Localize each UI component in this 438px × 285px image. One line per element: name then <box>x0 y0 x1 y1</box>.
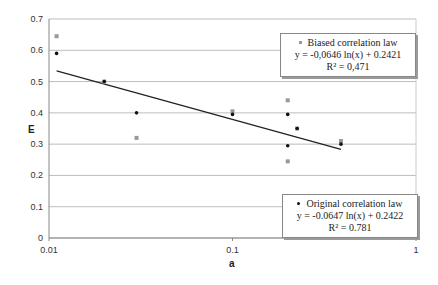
dot-marker <box>102 80 106 84</box>
y-axis-label: E <box>28 124 35 135</box>
trendline-path <box>57 71 341 150</box>
dot-marker <box>339 142 343 146</box>
legend-biased-title: Biased correlation law <box>308 37 398 48</box>
square-marker <box>286 98 290 102</box>
y-tick-label: 0 <box>38 233 43 243</box>
y-tick-label: 0.2 <box>30 170 43 180</box>
y-tick-label: 0.3 <box>30 139 43 149</box>
dot-marker <box>135 111 139 115</box>
legend-original-title: Original correlation law <box>306 198 402 209</box>
square-marker-icon <box>299 41 302 44</box>
y-tick-label: 0.7 <box>30 14 43 24</box>
legend-original-r2: R² = 0.781 <box>287 222 413 234</box>
legend-original: Original correlation law y = -0.0647 ln(… <box>282 194 418 238</box>
y-tick-label: 0.1 <box>30 202 43 212</box>
dot-marker <box>55 52 59 56</box>
x-tick-labels: 0.010.11 <box>40 245 418 255</box>
dot-marker <box>295 127 299 131</box>
legend-biased-equation: y = -0,0646 ln(x) + 0.2421 <box>285 49 411 61</box>
dot-marker <box>286 144 290 148</box>
y-tick-label: 0.6 <box>30 45 43 55</box>
x-axis-label: a <box>229 258 235 269</box>
legend-original-equation: y = -0.0647 ln(x) + 0.2422 <box>287 210 413 222</box>
legend-biased: Biased correlation law y = -0,0646 ln(x)… <box>280 33 416 77</box>
legend-biased-r2: R² = 0,471 <box>285 61 411 73</box>
y-tick-label: 0.4 <box>30 108 43 118</box>
dot-marker <box>231 113 235 117</box>
x-tick-label: 0.1 <box>226 245 239 255</box>
y-tick-label: 0.5 <box>30 77 43 87</box>
square-marker <box>55 34 59 38</box>
x-tick-label: 1 <box>413 245 418 255</box>
square-marker <box>135 136 139 140</box>
x-tick-label: 0.01 <box>40 245 58 255</box>
square-marker <box>286 159 290 163</box>
dot-marker-icon <box>297 202 300 205</box>
dot-marker <box>286 113 290 117</box>
trendline <box>57 71 341 150</box>
